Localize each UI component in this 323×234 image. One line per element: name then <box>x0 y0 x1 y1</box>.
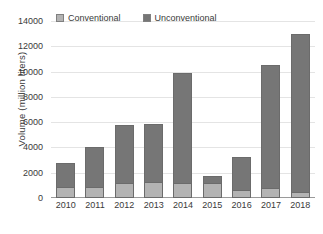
y-axis-tick-label: 2000 <box>23 168 43 177</box>
bar-segment-conventional[interactable] <box>261 188 280 198</box>
x-axis-tick-label: 2012 <box>110 200 139 211</box>
bar-group[interactable] <box>56 21 75 198</box>
legend-swatch-conventional-icon <box>56 14 64 22</box>
bar-segment-conventional[interactable] <box>85 187 104 198</box>
x-axis-tick-label: 2013 <box>139 200 168 211</box>
bar-segment-unconventional[interactable] <box>232 157 251 189</box>
bar-group[interactable] <box>115 21 134 198</box>
legend-item-unconventional: Unconventional <box>143 13 217 23</box>
x-axis-tick-label: 2011 <box>80 200 109 211</box>
x-axis-tick-label: 2015 <box>198 200 227 211</box>
bar-group[interactable] <box>144 21 163 198</box>
bar-segment-unconventional[interactable] <box>261 65 280 188</box>
bar-segment-conventional[interactable] <box>144 182 163 198</box>
bar-group[interactable] <box>85 21 104 198</box>
x-axis-tick-label: 2016 <box>227 200 256 211</box>
y-axis-tick-label: 10000 <box>18 67 43 76</box>
y-axis-tick-labels: 02000400060008000100001200014000 <box>0 21 47 198</box>
stacked-bar-chart: Conventional Unconventional Volume (mill… <box>0 0 323 234</box>
bar-segment-unconventional[interactable] <box>291 34 310 192</box>
legend-label-conventional: Conventional <box>68 13 121 23</box>
bar-segment-conventional[interactable] <box>56 187 75 198</box>
y-axis-tick-label: 6000 <box>23 118 43 127</box>
bar-segment-conventional[interactable] <box>115 183 134 198</box>
legend-item-conventional: Conventional <box>56 13 121 23</box>
y-axis-tick-label: 0 <box>38 194 43 203</box>
bar-group[interactable] <box>261 21 280 198</box>
y-axis-tick-label: 8000 <box>23 92 43 101</box>
legend-label-unconventional: Unconventional <box>155 13 217 23</box>
y-axis-tick-label: 14000 <box>18 17 43 26</box>
x-axis-tick-label: 2017 <box>256 200 285 211</box>
bar-group[interactable] <box>232 21 251 198</box>
bar-segment-unconventional[interactable] <box>144 124 163 182</box>
bar-segment-unconventional[interactable] <box>56 163 75 187</box>
bar-series-container <box>51 21 315 198</box>
bar-segment-conventional[interactable] <box>203 183 222 198</box>
chart-legend: Conventional Unconventional <box>56 13 217 23</box>
bar-segment-unconventional[interactable] <box>115 125 134 183</box>
y-axis-tick-label: 12000 <box>18 42 43 51</box>
bar-segment-conventional[interactable] <box>173 183 192 198</box>
x-axis-tick-label: 2010 <box>51 200 80 211</box>
bar-segment-unconventional[interactable] <box>85 147 104 187</box>
bar-segment-conventional[interactable] <box>232 190 251 198</box>
y-axis-tick-label: 4000 <box>23 143 43 152</box>
bar-segment-unconventional[interactable] <box>173 73 192 183</box>
bar-group[interactable] <box>173 21 192 198</box>
bar-group[interactable] <box>203 21 222 198</box>
bar-group[interactable] <box>291 21 310 198</box>
x-axis-tick-label: 2018 <box>286 200 315 211</box>
x-axis-tick-labels: 201020112012201320142015201620172018 <box>51 200 315 216</box>
bar-segment-conventional[interactable] <box>291 192 310 198</box>
x-axis-tick-label: 2014 <box>168 200 197 211</box>
legend-swatch-unconventional-icon <box>143 14 151 22</box>
